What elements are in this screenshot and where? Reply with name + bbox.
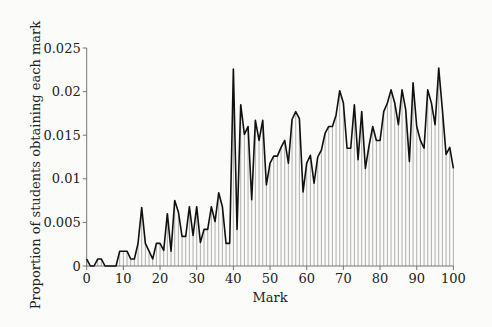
x-tick-label: 40	[225, 271, 242, 286]
x-tick-label: 90	[408, 271, 425, 286]
x-tick-label: 10	[115, 271, 132, 286]
x-tick-label: 60	[298, 271, 315, 286]
y-axis-title: Proportion of students obtaining each ma…	[28, 21, 43, 309]
x-tick-label: 0	[83, 271, 91, 286]
x-axis-title: Mark	[252, 290, 287, 305]
x-tick-label: 70	[335, 271, 352, 286]
y-axis: 00.0050.010.0150.020.025	[43, 41, 86, 274]
y-tick-label: 0.02	[52, 84, 81, 99]
x-tick-label: 20	[152, 271, 169, 286]
y-tick-label: 0	[72, 259, 80, 274]
x-tick-label: 30	[188, 271, 205, 286]
x-tick-label: 50	[262, 271, 279, 286]
proportion-by-mark-chart: 00.0050.010.0150.020.025 010203040506070…	[0, 0, 492, 327]
y-tick-label: 0.025	[43, 41, 80, 56]
x-ticks: 0102030405060708090100	[83, 266, 466, 286]
x-axis: 0102030405060708090100	[83, 266, 466, 286]
x-tick-label: 100	[441, 271, 466, 286]
y-tick-label: 0.015	[43, 128, 80, 143]
y-tick-label: 0.005	[43, 215, 80, 230]
x-tick-label: 80	[372, 271, 389, 286]
y-tick-label: 0.01	[52, 171, 81, 186]
y-ticks: 00.0050.010.0150.020.025	[43, 41, 86, 274]
